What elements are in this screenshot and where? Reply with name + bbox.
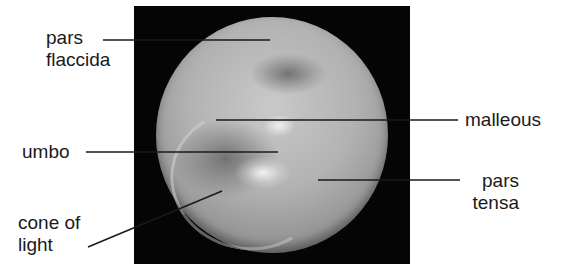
label-pars-flaccida: pars flaccida: [46, 27, 110, 71]
label-pars-flaccida-line2: flaccida: [46, 49, 110, 71]
label-malleous: malleous: [465, 109, 541, 131]
eardrum-diagram: pars flaccida malleous umbo pars tensa c…: [0, 0, 567, 275]
label-pars-tensa: pars tensa: [462, 170, 519, 214]
label-cone-of-light: cone of light: [18, 212, 80, 256]
label-pars-tensa-line2: tensa: [462, 192, 519, 214]
leader-line-cone-of-light: [88, 191, 222, 247]
label-cone-of-light-line2: light: [18, 234, 80, 256]
label-umbo: umbo: [22, 141, 70, 163]
label-pars-tensa-line1: pars: [462, 170, 519, 192]
label-pars-flaccida-line1: pars: [46, 27, 110, 49]
label-cone-of-light-line1: cone of: [18, 212, 80, 234]
